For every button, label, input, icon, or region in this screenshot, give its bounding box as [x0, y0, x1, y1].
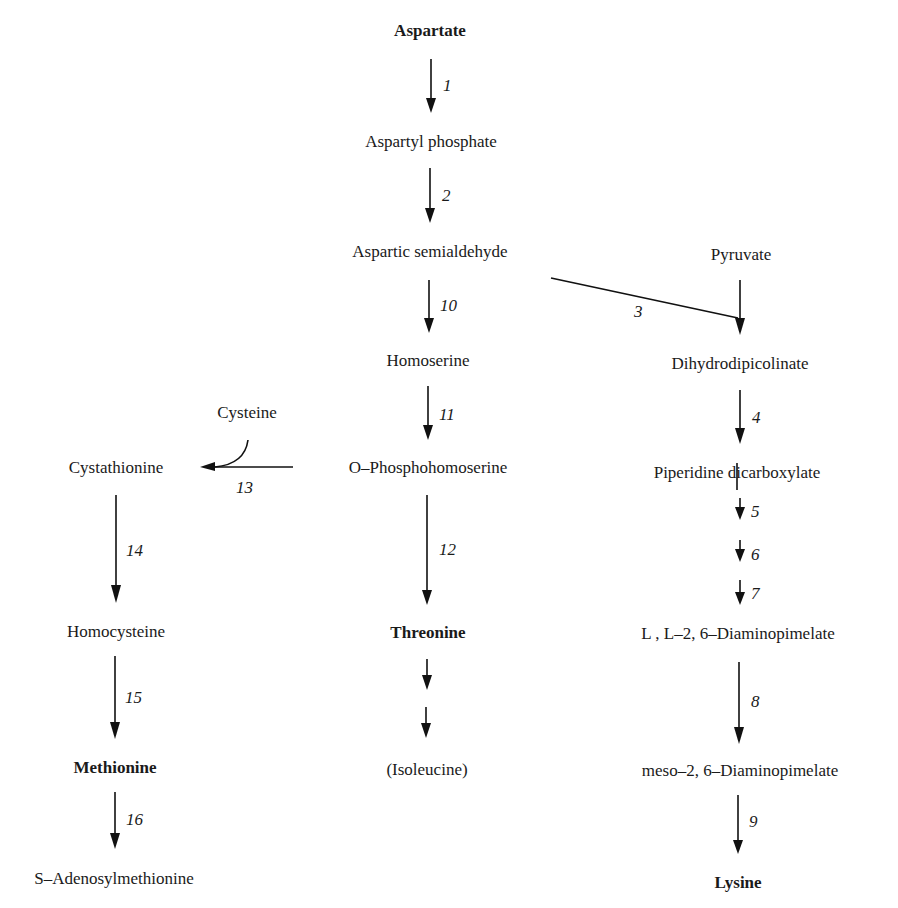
arrow-step-3	[551, 278, 738, 318]
node-meso-diaminopimelate: meso–2, 6–Diaminopimelate	[642, 761, 838, 781]
step-label-12: 12	[439, 540, 456, 560]
step-label-14: 14	[126, 541, 143, 561]
aspartate-pathway-diagram: Aspartate Aspartyl phosphate Aspartic se…	[0, 0, 898, 908]
node-homoserine: Homoserine	[386, 351, 469, 371]
node-ll-diaminopimelate: L , L–2, 6–Diaminopimelate	[641, 624, 834, 644]
ll-suffix: –2, 6–Diaminopimelate	[674, 624, 835, 643]
arrow-step-14	[111, 495, 121, 603]
arrow-step-16	[110, 792, 120, 849]
arrow-threonine-to-isoleucine-1	[422, 659, 432, 690]
step-label-5: 5	[751, 502, 760, 522]
node-aspartic-semialdehyde: Aspartic semialdehyde	[352, 242, 507, 262]
node-isoleucine: (Isoleucine)	[386, 760, 467, 780]
step-label-6: 6	[751, 545, 760, 565]
step-label-3: 3	[634, 302, 643, 322]
node-aspartyl-phosphate: Aspartyl phosphate	[365, 132, 497, 152]
node-dihydrodipicolinate: Dihydrodipicolinate	[672, 354, 809, 374]
step-label-2: 2	[442, 186, 451, 206]
step-label-9: 9	[749, 812, 758, 832]
step-label-16: 16	[126, 810, 143, 830]
arrow-step-7	[735, 580, 745, 605]
arrow-pyruvate-to-dihydrodipicolinate	[735, 280, 745, 335]
arrow-step-6	[735, 540, 745, 562]
arrow-step-5	[735, 498, 745, 520]
step-label-13: 13	[236, 478, 253, 498]
node-homocysteine: Homocysteine	[67, 622, 165, 642]
step-label-1: 1	[443, 76, 452, 96]
node-threonine: Threonine	[390, 623, 465, 643]
arrow-step-15	[110, 656, 120, 739]
arrow-step-4	[735, 390, 745, 444]
arrow-step-1	[426, 59, 436, 113]
ll-prefix: L , L	[641, 624, 674, 643]
node-aspartate: Aspartate	[394, 21, 466, 41]
step-label-7: 7	[751, 584, 760, 604]
node-methionine: Methionine	[73, 758, 156, 778]
node-cysteine: Cysteine	[217, 403, 277, 423]
arrow-step-9	[733, 795, 743, 854]
arrow-threonine-to-isoleucine-2	[421, 707, 431, 738]
step-label-4: 4	[752, 408, 761, 428]
step-label-15: 15	[125, 688, 142, 708]
node-s-adenosylmethionine: S–Adenosylmethionine	[34, 869, 194, 889]
step-label-11: 11	[439, 405, 455, 425]
step-label-8: 8	[751, 692, 760, 712]
arrow-step-11	[423, 386, 433, 440]
arrow-step-12	[422, 495, 432, 605]
arrow-step-8	[734, 662, 744, 744]
step-label-10: 10	[440, 296, 457, 316]
arrow-step-13	[200, 440, 293, 471]
node-piperidine-dicarboxylate: Piperidine dicarboxylate	[654, 463, 821, 483]
node-cystathionine: Cystathionine	[69, 458, 163, 478]
node-pyruvate: Pyruvate	[711, 245, 771, 265]
node-lysine: Lysine	[714, 873, 761, 893]
node-o-phosphohomoserine: O–Phosphohomoserine	[349, 458, 508, 478]
arrow-step-2	[425, 168, 435, 223]
arrow-step-10	[424, 280, 434, 333]
